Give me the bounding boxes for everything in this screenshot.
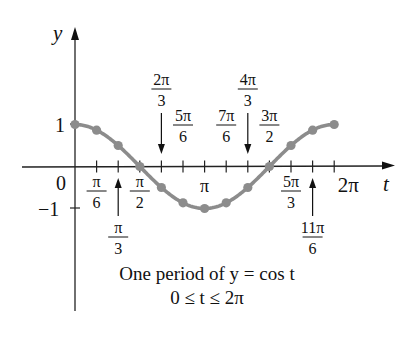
svg-text:π: π (136, 173, 144, 190)
svg-text:7π: 7π (218, 107, 234, 124)
x-tick-label: 2π3 (151, 71, 171, 109)
y-axis-arrow-icon (71, 27, 79, 40)
data-point (265, 162, 274, 171)
svg-text:11π: 11π (301, 219, 324, 236)
svg-text:2π: 2π (153, 71, 169, 88)
x-axis-arrow-icon (382, 162, 395, 170)
cosine-chart: π6π3π22π35π6π7π64π33π25π311π62π y t 0 1 … (0, 0, 409, 343)
data-point (243, 183, 252, 192)
x-tick-label: 3π2 (259, 107, 279, 145)
data-point (200, 204, 209, 213)
x-tick-label: π2 (130, 173, 150, 211)
svg-text:π: π (93, 173, 101, 190)
svg-text:3: 3 (244, 92, 252, 109)
svg-text:3: 3 (114, 240, 122, 257)
svg-text:5π: 5π (175, 107, 191, 124)
svg-text:2: 2 (265, 128, 273, 145)
y-tick-label-1: 1 (55, 114, 65, 136)
x-tick-label: 11π6 (301, 219, 324, 257)
svg-text:6: 6 (179, 128, 187, 145)
svg-text:6: 6 (222, 128, 230, 145)
caption-line-1: One period of y = cos t (119, 263, 295, 284)
x-tick-label: 5π3 (281, 173, 301, 211)
x-tick-label: π (200, 176, 209, 196)
svg-text:6: 6 (93, 194, 101, 211)
svg-text:3: 3 (157, 92, 165, 109)
svg-text:3: 3 (287, 194, 295, 211)
data-point (222, 198, 231, 207)
data-point (70, 120, 79, 129)
origin-label: 0 (56, 172, 66, 194)
data-point (286, 141, 295, 150)
down-arrow-head-icon (244, 144, 251, 154)
up-arrow-head-icon (309, 178, 316, 188)
svg-text:3π: 3π (261, 107, 277, 124)
x-axis (22, 166, 384, 167)
x-axis-label: t (383, 172, 390, 196)
svg-text:6: 6 (309, 240, 317, 257)
data-point (157, 183, 166, 192)
y-tick-label-minus-1: −1 (38, 198, 59, 220)
x-tick-label: π6 (87, 173, 107, 211)
svg-text:2: 2 (136, 194, 144, 211)
y-axis-label: y (51, 21, 63, 45)
data-point (308, 126, 317, 135)
x-tick-label: 4π3 (238, 71, 258, 109)
svg-text:4π: 4π (240, 71, 256, 88)
svg-text:5π: 5π (283, 173, 299, 190)
data-point (330, 120, 339, 129)
data-point (178, 198, 187, 207)
x-tick-label: 7π6 (216, 107, 236, 145)
down-arrow-head-icon (158, 144, 165, 154)
x-tick-label: 2π (338, 173, 360, 197)
x-tick-labels: π6π3π22π35π6π7π64π33π25π311π62π (87, 71, 360, 257)
data-point (135, 162, 144, 171)
caption-line-2: 0 ≤ t ≤ 2π (170, 287, 244, 308)
data-point (114, 141, 123, 150)
svg-text:π: π (114, 219, 122, 236)
x-tick-label: π3 (108, 219, 128, 257)
up-arrow-head-icon (115, 178, 122, 188)
x-tick-label: 5π6 (173, 107, 193, 145)
data-point (92, 126, 101, 135)
